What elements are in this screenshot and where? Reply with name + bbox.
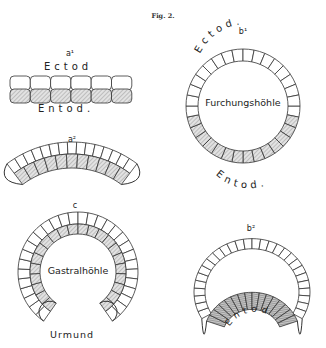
- ectoderm-cell: [243, 239, 252, 250]
- ectoderm-cell: [58, 142, 68, 155]
- panel-a1-ectoderm-label: Ectod: [44, 61, 92, 72]
- panel-b1-label: b¹: [239, 27, 247, 36]
- gastrula-edge-right: [297, 319, 302, 335]
- panel-c-cavity-label: Gastralhöhle: [48, 265, 109, 276]
- panel-c-opening-label: Urmund: [50, 329, 94, 340]
- gastrula-edge-left: [202, 319, 207, 335]
- entoderm-cell: [51, 89, 71, 103]
- entoderm-cell: [66, 154, 77, 168]
- panel-a1-cell-layers: [10, 76, 132, 103]
- ectoderm-cell: [91, 76, 111, 90]
- ectoderm-cell: [10, 76, 30, 90]
- panel-b1-entoderm-label: Entod.: [214, 168, 268, 191]
- ectoderm-cell: [67, 142, 76, 154]
- ectoderm-cell: [71, 76, 91, 90]
- entoderm-cell: [67, 224, 78, 235]
- panel-b1: b¹ Ectod. Furchungshöhle Entod.: [186, 15, 300, 191]
- panel-a2: a²: [4, 135, 140, 185]
- panel-c-label: c: [73, 201, 77, 210]
- entoderm-cell: [91, 89, 111, 103]
- ectoderm-cell: [186, 106, 199, 117]
- panel-b1-ectoderm-label: Ectod.: [192, 15, 244, 55]
- panel-a1-label: a¹: [66, 49, 74, 58]
- panel-b1-cavity-label: Furchungshöhle: [205, 97, 280, 108]
- ectoderm-cell: [18, 269, 30, 279]
- entoderm-cell: [243, 150, 254, 163]
- panel-b2: b² Entod.: [194, 224, 310, 334]
- ectoderm-cell: [30, 76, 50, 90]
- entoderm-cell: [55, 154, 67, 169]
- ectoderm-cell: [287, 95, 300, 106]
- panel-a1-entoderm-label: Entod.: [38, 103, 94, 114]
- panel-c: c Gastralhöhle Urmund: [18, 201, 138, 340]
- ectoderm-cell: [51, 76, 71, 90]
- figure-title: Fig. 2.: [152, 12, 175, 20]
- ectoderm-cell: [194, 288, 205, 296]
- entoderm-cell: [112, 89, 132, 103]
- ectoderm-cell: [68, 212, 78, 225]
- ectoderm-cell: [232, 49, 243, 62]
- ectoderm-cell: [112, 76, 132, 90]
- figure-canvas: Fig. 2. a¹ Ectod Entod. a² b¹ Ectod. Fur…: [0, 0, 326, 348]
- entoderm-cell: [71, 89, 91, 103]
- entoderm-cell: [10, 89, 30, 103]
- entoderm-cell: [115, 263, 126, 274]
- panel-a2-curved-plate: [4, 142, 140, 185]
- entoderm-cell: [30, 89, 50, 103]
- panel-b2-label: b²: [247, 224, 255, 233]
- panel-a1: a¹ Ectod Entod.: [10, 49, 132, 114]
- ectoderm-cell: [299, 288, 310, 296]
- panel-b2-invaginating-gastrula: [194, 239, 310, 335]
